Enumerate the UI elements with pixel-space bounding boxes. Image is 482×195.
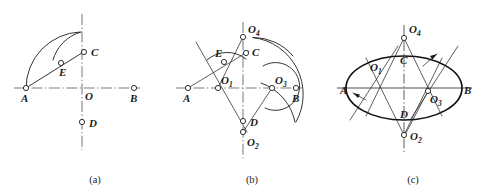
panel-a-line-A-to-C (26, 51, 85, 88)
panel-b-label-O3-group: O 3 (275, 74, 287, 89)
panel-b: A B C D E O 1 O 3 O 4 O 2 (b) (176, 22, 303, 186)
panel-b-label-D: D (249, 116, 258, 128)
panel-c-arrow-left-head (353, 93, 360, 98)
panel-b-point-O4 (240, 34, 245, 39)
panel-b-label-O4: O (248, 23, 256, 35)
panel-a-point-B (131, 85, 136, 90)
panel-c-label-C: C (400, 54, 408, 66)
panel-a-point-D (79, 119, 84, 124)
panel-b-label-O4-group: O 4 (248, 23, 260, 38)
panel-c-arrow-left (353, 93, 366, 100)
panel-c-label-A: A (339, 84, 347, 96)
panel-b-label-O1-group: O 1 (221, 74, 233, 89)
panel-c-label-O2-group: O 2 (410, 130, 422, 145)
panel-a-point-C (81, 49, 86, 54)
panel-b-label-B: B (291, 92, 299, 104)
panel-c-label-O3-subscript: 3 (437, 99, 442, 108)
panel-b-label-O2-subscript: 2 (254, 142, 259, 151)
panel-a-label-E: E (58, 66, 66, 78)
panel-b-point-O1 (215, 85, 220, 90)
panel-b-label-O2: O (247, 136, 255, 148)
panel-c-label-D: D (399, 108, 408, 120)
panel-c: A B C D O 1 O 3 O 4 O 2 (c) (337, 23, 472, 186)
panel-a-point-A (23, 85, 28, 90)
panel-c-point-O2 (401, 132, 406, 137)
panel-c-label-O1-subscript: 1 (378, 67, 382, 76)
panel-b-point-C (243, 50, 248, 55)
panel-b-point-A (185, 85, 190, 90)
panel-b-label-O3-subscript: 3 (282, 80, 287, 89)
panel-a-label-A: A (20, 92, 28, 104)
panel-c-leader-O3-to-O2 (406, 91, 428, 133)
panel-b-label-O1-subscript: 1 (229, 80, 233, 89)
panel-b-point-D (240, 118, 245, 123)
panel-b-point-E (221, 59, 226, 64)
panel-b-label-O3: O (275, 74, 283, 86)
panel-c-point-O4 (401, 35, 406, 40)
panel-b-point-O3 (269, 85, 274, 90)
panel-c-label-O2-subscript: 2 (417, 136, 422, 145)
panel-b-caption: (b) (246, 174, 259, 186)
panel-c-label-O3-group: O 3 (430, 93, 442, 108)
panel-b-point-B (293, 85, 298, 90)
panel-c-label-O2: O (410, 130, 418, 142)
panel-b-label-C: C (252, 46, 260, 58)
panel-a-label-C: C (91, 46, 99, 58)
panel-c-radius-O4-left (366, 38, 404, 116)
panel-b-label-O2-group: O 2 (247, 136, 259, 151)
panel-a-point-E (58, 60, 63, 65)
panel-c-caption: (c) (407, 174, 419, 186)
figure-root: A B C D E O (a) (0, 0, 482, 195)
panel-a-label-D: D (88, 117, 97, 129)
panel-b-arc-lower-O2 (261, 83, 295, 122)
panel-b-label-O4-subscript: 4 (255, 29, 260, 38)
panel-b-label-A: A (182, 92, 190, 104)
panel-b-label-O1: O (221, 74, 229, 86)
panel-a-label-B: B (129, 92, 137, 104)
panel-a-caption: (a) (89, 174, 101, 186)
panel-c-label-O1: O (370, 61, 378, 73)
approximate-ellipse-figure: A B C D E O (a) (0, 0, 482, 195)
panel-b-point-O2 (240, 129, 245, 134)
panel-a-label-O: O (85, 90, 93, 102)
panel-c-label-B: B (463, 84, 471, 96)
panel-c-label-O4: O (409, 23, 417, 35)
panel-c-label-O4-group: O 4 (409, 23, 421, 38)
panel-b-label-E: E (214, 47, 222, 59)
panel-c-label-O3: O (430, 93, 438, 105)
panel-c-label-O4-subscript: 4 (416, 29, 421, 38)
panel-c-label-O1-group: O 1 (370, 61, 382, 76)
panel-a: A B C D E O (a) (14, 14, 140, 186)
